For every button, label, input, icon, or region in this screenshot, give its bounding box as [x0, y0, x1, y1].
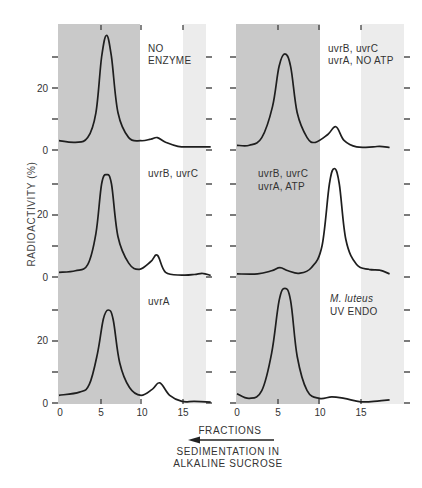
panel-label-top-left-1: NO: [148, 43, 164, 54]
x-tick-5-right: 5: [275, 407, 281, 418]
panel-label-bottom-right-1: M. luteus: [330, 293, 373, 304]
shading: [58, 24, 404, 404]
x-tick-0-right: 0: [234, 407, 240, 418]
right-light-band: [361, 24, 404, 404]
x-tick-0-left: 0: [57, 407, 63, 418]
panel-label-top-right-1: uvrB, uvrC: [328, 43, 378, 54]
x-axis-label: FRACTIONS: [198, 425, 261, 436]
panel-label-mid-right-2: uvrA, ATP: [258, 181, 305, 192]
y-axis-label: RADIOACTIVITY (%): [26, 161, 37, 266]
y-tick-20-mid: 20: [37, 209, 49, 220]
y-tick-0-mid: 0: [42, 272, 48, 283]
panel-label-mid-right-1: uvrB, uvrC: [258, 168, 308, 179]
figure: 0 20 0 20 0 20 0 5 10 15 0 5 10 15 NO EN…: [0, 0, 422, 488]
x-tick-15-right: 15: [355, 407, 367, 418]
panel-label-top-left-2: ENZYME: [148, 55, 191, 66]
x-tick-15-left: 15: [177, 407, 189, 418]
panel-label-bottom-right-2: UV ENDO: [330, 306, 378, 317]
y-tick-0-top: 0: [42, 145, 48, 156]
x-tick-10-left: 10: [136, 407, 148, 418]
x-tick-5-left: 5: [98, 407, 104, 418]
y-tick-20-bottom: 20: [37, 335, 49, 346]
left-light-band: [183, 24, 206, 404]
sedimentation-label-line2: ALKALINE SUCROSE: [173, 458, 283, 469]
sedimentation-label-line1: SEDIMENTATION IN: [176, 446, 279, 457]
right-dark-band: [236, 24, 320, 404]
sedimentation-arrow-icon: [188, 437, 274, 444]
y-tick-0-bottom: 0: [42, 398, 48, 409]
panel-label-mid-left-1: uvrB, uvrC: [148, 168, 198, 179]
x-tick-10-right: 10: [314, 407, 326, 418]
panel-label-top-right-2: uvrA, NO ATP: [328, 55, 394, 66]
panel-label-bottom-left-1: uvrA: [148, 296, 170, 307]
y-tick-20-top: 20: [37, 83, 49, 94]
